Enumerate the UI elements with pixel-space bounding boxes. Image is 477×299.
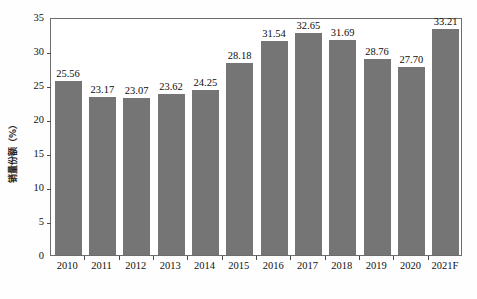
bar-group[interactable]: 23.62 [154, 19, 188, 255]
y-tick-mark [47, 155, 51, 156]
y-tick-label: 15 [20, 149, 44, 159]
bar[interactable] [329, 40, 356, 255]
bar-group[interactable]: 31.54 [257, 19, 291, 255]
bar-group[interactable]: 33.21 [429, 19, 463, 255]
bar-group[interactable]: 31.69 [326, 19, 360, 255]
x-tick-mark [393, 256, 394, 260]
bar[interactable] [192, 90, 219, 255]
y-tick-label: 35 [20, 13, 44, 23]
bar[interactable] [432, 29, 459, 255]
bar[interactable] [295, 33, 322, 255]
y-tick-mark [47, 53, 51, 54]
bars-layer: 25.5623.1723.0723.6224.2528.1831.5432.65… [51, 19, 461, 255]
bar-group[interactable]: 28.18 [223, 19, 257, 255]
y-tick-mark [47, 189, 51, 190]
x-tick-mark [359, 256, 360, 260]
bar[interactable] [89, 97, 116, 255]
x-tick-mark [119, 256, 120, 260]
x-tick-label: 2013 [153, 260, 187, 271]
x-tick-mark [84, 256, 85, 260]
x-tick-label: 2011 [84, 260, 118, 271]
bar-group[interactable]: 32.65 [291, 19, 325, 255]
bar[interactable] [158, 94, 185, 255]
x-tick-label: 2020 [393, 260, 427, 271]
x-tick-mark [428, 256, 429, 260]
bar-value-label: 33.21 [425, 16, 467, 27]
bar-value-label: 25.56 [47, 68, 89, 79]
x-tick-mark [325, 256, 326, 260]
y-tick-label: 0 [20, 251, 44, 261]
bar-group[interactable]: 25.56 [51, 19, 85, 255]
x-tick-label: 2021F [428, 260, 462, 271]
y-tick-label: 5 [20, 217, 44, 227]
x-tick-mark [222, 256, 223, 260]
bar-group[interactable]: 27.70 [394, 19, 428, 255]
bar[interactable] [364, 59, 391, 255]
x-tick-mark [256, 256, 257, 260]
bar[interactable] [398, 67, 425, 255]
x-tick-label: 2018 [325, 260, 359, 271]
x-tick-mark [187, 256, 188, 260]
bar[interactable] [123, 98, 150, 255]
bar[interactable] [226, 63, 253, 255]
bar-value-label: 31.69 [322, 27, 364, 38]
bar-value-label: 28.18 [219, 50, 261, 61]
bar-value-label: 24.25 [184, 77, 226, 88]
x-tick-label: 2014 [187, 260, 221, 271]
x-tick-label: 2010 [50, 260, 84, 271]
x-tick-label: 2017 [290, 260, 324, 271]
bar-group[interactable]: 23.07 [120, 19, 154, 255]
x-axis-tick-labels: 2010201120122013201420152016201720182019… [50, 260, 462, 280]
x-tick-mark [290, 256, 291, 260]
bar-chart-figure: 销量份额（%） 05101520253035 25.5623.1723.0723… [0, 0, 477, 299]
bar-group[interactable]: 28.76 [360, 19, 394, 255]
x-tick-label: 2019 [359, 260, 393, 271]
bar-value-label: 27.70 [390, 54, 432, 65]
plot-area: 25.5623.1723.0723.6224.2528.1831.5432.65… [50, 18, 462, 256]
x-tick-label: 2016 [256, 260, 290, 271]
bar-group[interactable]: 23.17 [85, 19, 119, 255]
y-axis-tick-labels: 05101520253035 [18, 0, 44, 299]
y-tick-mark [47, 121, 51, 122]
y-tick-label: 30 [20, 47, 44, 57]
bar[interactable] [55, 81, 82, 255]
y-tick-label: 25 [20, 81, 44, 91]
x-tick-label: 2012 [119, 260, 153, 271]
bar[interactable] [261, 41, 288, 255]
x-tick-label: 2015 [222, 260, 256, 271]
y-tick-mark [47, 223, 51, 224]
x-tick-mark [153, 256, 154, 260]
y-tick-label: 20 [20, 115, 44, 125]
y-tick-mark [47, 87, 51, 88]
bar-group[interactable]: 24.25 [188, 19, 222, 255]
y-tick-label: 10 [20, 183, 44, 193]
